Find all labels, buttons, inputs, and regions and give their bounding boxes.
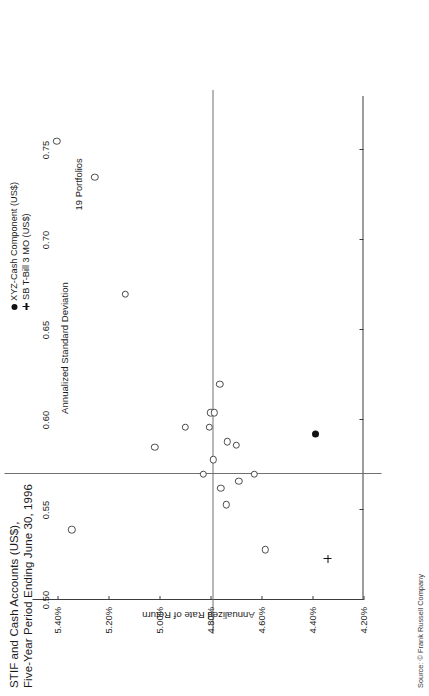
y-tick xyxy=(363,596,364,600)
sb-tbill-3mo-point xyxy=(323,555,331,563)
x-tick-label: 0.60 xyxy=(39,411,50,429)
portfolio-point xyxy=(151,443,158,450)
source-credit: Source: © Frank Russell Company xyxy=(415,574,424,688)
legend-item-sb-tbill-3mo: SB T-Bill 3 MO (US$) xyxy=(20,182,32,310)
y-tick-label: 5.20% xyxy=(103,607,114,634)
y-tick-label: 4.60% xyxy=(256,607,267,634)
y-tick-label: 5.40% xyxy=(52,607,63,634)
x-axis-title: Annualized Standard Deviation xyxy=(58,282,69,414)
y-tick-label: 4.40% xyxy=(307,607,318,634)
y-tick xyxy=(159,596,160,600)
x-tick-label: 0.55 xyxy=(39,501,50,519)
y-tick xyxy=(108,596,109,600)
legend-label-sb-tbill-3mo: SB T-Bill 3 MO (US$) xyxy=(20,213,32,300)
x-tick xyxy=(359,239,363,240)
x-axis-line xyxy=(362,96,363,600)
chart-legend: XYZ-Cash Component (US$) SB T-Bill 3 MO … xyxy=(8,182,32,310)
plus-marker-icon xyxy=(22,303,29,310)
y-tick-label: 4.20% xyxy=(358,607,369,634)
x-tick xyxy=(359,509,363,510)
portfolio-point xyxy=(199,470,206,477)
portfolio-point xyxy=(52,137,59,144)
x-tick-label: 0.50 xyxy=(39,591,50,609)
median-line-vertical xyxy=(4,473,381,474)
portfolio-point xyxy=(217,485,224,492)
portfolio-point xyxy=(210,409,217,416)
portfolio-point xyxy=(121,290,128,297)
portfolio-point xyxy=(223,438,230,445)
portfolio-point xyxy=(205,424,212,431)
portfolio-point xyxy=(215,380,222,387)
chart-title-line-1: STIF and Cash Accounts (US$), xyxy=(6,484,20,688)
x-tick xyxy=(359,149,363,150)
portfolio-point xyxy=(209,456,216,463)
chart-title: STIF and Cash Accounts (US$), Five-Year … xyxy=(6,484,35,688)
portfolio-point xyxy=(222,501,229,508)
y-tick xyxy=(210,596,211,600)
legend-item-xyz-cash-component: XYZ-Cash Component (US$) xyxy=(8,182,20,310)
portfolio-point xyxy=(232,442,239,449)
x-tick xyxy=(359,329,363,330)
x-tick xyxy=(359,599,363,600)
filled-dot-icon xyxy=(11,304,17,310)
x-tick-label: 0.75 xyxy=(39,141,50,159)
y-tick xyxy=(57,596,58,600)
x-tick xyxy=(359,419,363,420)
y-tick xyxy=(312,596,313,600)
median-line-horizontal xyxy=(212,90,213,634)
x-tick-label: 0.70 xyxy=(39,231,50,249)
portfolio-point xyxy=(181,424,188,431)
portfolio-point xyxy=(68,526,75,533)
y-tick xyxy=(261,596,262,600)
portfolio-point xyxy=(250,470,257,477)
plot-area: 0.500.550.600.650.700.75 4.20%4.40%4.60%… xyxy=(32,96,363,600)
xyz-cash-component-point xyxy=(311,431,318,438)
x-tick-label: 0.65 xyxy=(39,321,50,339)
portfolio-point xyxy=(91,173,98,180)
portfolio-point xyxy=(261,546,268,553)
scatter-chart-figure: STIF and Cash Accounts (US$), Five-Year … xyxy=(0,0,429,696)
y-axis-title: Annualized Rate of Return xyxy=(141,610,254,621)
portfolio-point xyxy=(235,478,242,485)
legend-label-xyz-cash-component: XYZ-Cash Component (US$) xyxy=(8,182,20,301)
